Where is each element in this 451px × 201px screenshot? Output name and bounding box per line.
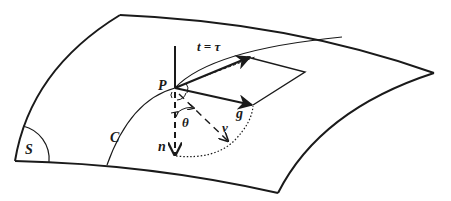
tangent-plane	[247, 57, 305, 105]
surface-left-edge	[15, 15, 120, 161]
label-surface-normal: n	[158, 139, 166, 154]
surface-right-edge	[278, 73, 434, 193]
geodesic-normal-arrow	[175, 88, 252, 105]
label-geodesic-normal: g	[235, 106, 243, 121]
label-principal-normal: ν	[222, 120, 228, 135]
label-surface: S	[25, 142, 33, 157]
label-curve: C	[110, 130, 120, 145]
surface-bottom-edge	[15, 161, 278, 193]
label-angle: θ	[182, 115, 189, 130]
theta-arc-arrow	[178, 108, 194, 113]
surface-outline	[15, 15, 434, 193]
curve-c	[107, 37, 342, 165]
label-tangent: t = τ	[197, 39, 222, 54]
right-angle-arc-n	[171, 92, 172, 98]
label-point: P	[158, 78, 167, 93]
surface-curve-diagram: S C P t = τ g n ν θ	[0, 0, 451, 201]
